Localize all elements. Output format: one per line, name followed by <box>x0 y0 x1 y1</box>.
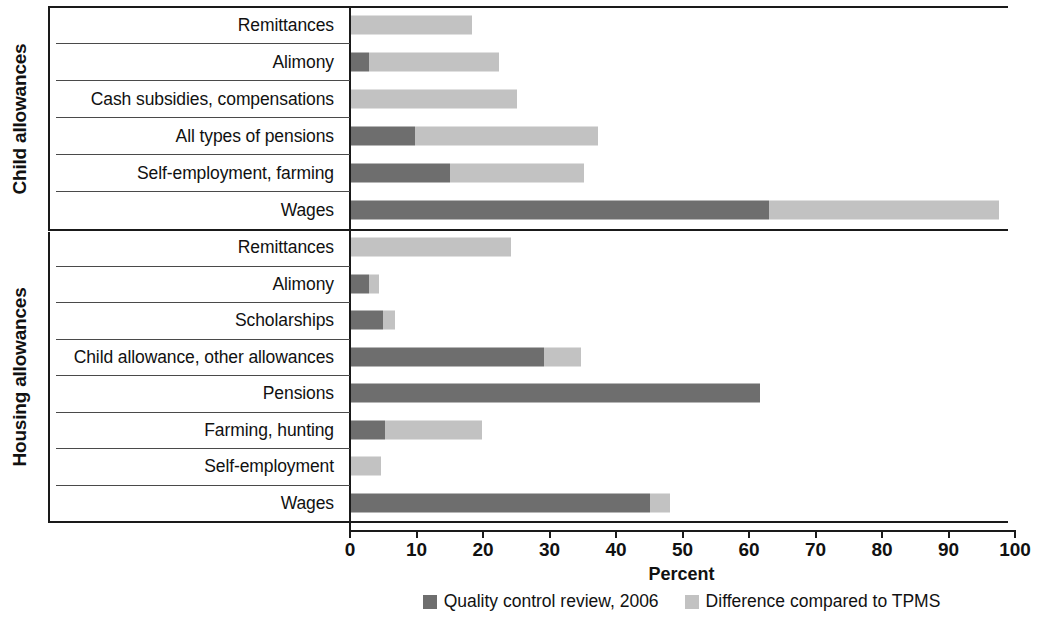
row-label: Child allowance, other allowances <box>48 346 342 367</box>
x-axis-tick <box>948 530 950 538</box>
frame-line-bottom <box>48 521 1008 523</box>
stacked-bar <box>351 274 379 293</box>
row-separator <box>56 191 350 192</box>
stacked-bar <box>351 457 381 476</box>
bar-segment-quality-control <box>351 200 769 219</box>
stacked-bar <box>351 420 482 439</box>
bar-segment-difference-tpms <box>385 420 482 439</box>
bar-segment-quality-control <box>351 493 650 512</box>
bar-segment-quality-control <box>351 347 544 366</box>
chart-row: Wages <box>48 485 1040 522</box>
row-label: Alimony <box>48 51 342 72</box>
row-separator <box>56 80 350 81</box>
row-separator <box>56 485 350 486</box>
x-axis-tick-label: 20 <box>472 539 493 561</box>
legend-item: Difference compared to TPMS <box>685 591 941 612</box>
bar-segment-difference-tpms <box>415 126 598 145</box>
x-axis-tick-label: 100 <box>999 539 1031 561</box>
row-separator <box>56 375 350 376</box>
row-label: Alimony <box>48 273 342 294</box>
bar-segment-quality-control <box>351 126 415 145</box>
row-label: Wages <box>48 199 342 220</box>
legend-item: Quality control review, 2006 <box>423 591 659 612</box>
chart-row: Alimony <box>48 266 1040 303</box>
stacked-bar <box>351 15 472 34</box>
x-axis-tick-label: 60 <box>738 539 759 561</box>
row-separator <box>56 43 350 44</box>
chart-figure: Child allowances Housing allowances Remi… <box>0 0 1040 618</box>
row-separator <box>56 302 350 303</box>
legend-label: Quality control review, 2006 <box>444 591 659 612</box>
stacked-bar <box>351 493 670 512</box>
row-label: Self-employment <box>48 456 342 477</box>
chart-row: Remittances <box>48 229 1040 266</box>
x-axis-tick <box>682 530 684 538</box>
chart-row: All types of pensions <box>48 117 1040 154</box>
x-axis-tick-label: 30 <box>539 539 560 561</box>
bar-segment-difference-tpms <box>351 457 381 476</box>
bar-segment-quality-control <box>351 274 369 293</box>
row-label: Scholarships <box>48 310 342 331</box>
x-axis-tick <box>482 530 484 538</box>
bar-segment-quality-control <box>351 163 450 182</box>
chart-legend: Quality control review, 2006Difference c… <box>349 591 1014 612</box>
bar-segment-quality-control <box>351 311 383 330</box>
chart-row: Self-employment, farming <box>48 154 1040 191</box>
row-label: All types of pensions <box>48 125 342 146</box>
group-label-child-allowances: Child allowances <box>0 8 40 230</box>
group-label-housing-allowances: Housing allowances <box>0 232 40 522</box>
x-axis-tick <box>815 530 817 538</box>
stacked-bar <box>351 311 395 330</box>
x-axis-tick <box>881 530 883 538</box>
stacked-bar <box>351 126 598 145</box>
chart-row: Remittances <box>48 6 1040 43</box>
x-axis-tick <box>349 530 351 538</box>
bar-segment-difference-tpms <box>369 274 379 293</box>
bar-segment-difference-tpms <box>544 347 581 366</box>
stacked-bar <box>351 384 760 403</box>
x-axis-tick-label: 90 <box>938 539 959 561</box>
bar-segment-difference-tpms <box>769 200 998 219</box>
row-label: Pensions <box>48 383 342 404</box>
stacked-bar <box>351 89 517 108</box>
chart-row: Cash subsidies, compensations <box>48 80 1040 117</box>
x-axis-tick-label: 70 <box>805 539 826 561</box>
x-axis-tick <box>416 530 418 538</box>
x-axis-tick-label: 80 <box>871 539 892 561</box>
x-axis-tick <box>748 530 750 538</box>
chart-row: Self-employment <box>48 448 1040 485</box>
chart-row: Scholarships <box>48 302 1040 339</box>
stacked-bar <box>351 347 581 366</box>
x-axis-tick-label: 50 <box>672 539 693 561</box>
bar-segment-difference-tpms <box>351 89 517 108</box>
chart-row: Alimony <box>48 43 1040 80</box>
row-label: Farming, hunting <box>48 419 342 440</box>
row-label: Remittances <box>48 14 342 35</box>
stacked-bar <box>351 52 499 71</box>
stacked-bar <box>351 200 999 219</box>
row-separator <box>56 339 350 340</box>
bar-segment-difference-tpms <box>369 52 499 71</box>
bar-segment-difference-tpms <box>351 238 511 257</box>
bar-segment-difference-tpms <box>650 493 670 512</box>
x-axis-tick <box>1014 530 1016 538</box>
x-axis-tick-label: 10 <box>406 539 427 561</box>
row-separator <box>56 154 350 155</box>
x-axis-tick-label: 0 <box>345 539 356 561</box>
bar-segment-difference-tpms <box>450 163 584 182</box>
row-separator <box>56 412 350 413</box>
x-axis-tick <box>615 530 617 538</box>
x-axis-label: Percent <box>349 564 1014 585</box>
bar-segment-difference-tpms <box>383 311 395 330</box>
group-label-housing-allowances-text: Housing allowances <box>9 287 31 466</box>
chart-row: Child allowance, other allowances <box>48 339 1040 376</box>
chart-row: Pensions <box>48 375 1040 412</box>
x-axis-tick <box>549 530 551 538</box>
bar-segment-difference-tpms <box>351 15 472 34</box>
legend-swatch-icon <box>685 595 699 609</box>
bar-segment-quality-control <box>351 384 760 403</box>
chart-row: Wages <box>48 191 1040 228</box>
row-label: Cash subsidies, compensations <box>48 88 342 109</box>
stacked-bar <box>351 163 584 182</box>
row-label: Remittances <box>48 237 342 258</box>
